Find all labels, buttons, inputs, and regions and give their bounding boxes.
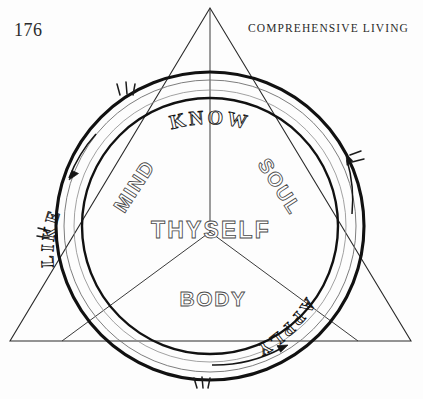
inner-label-soul: SOUL bbox=[254, 154, 306, 218]
inner-label-body: BODY bbox=[179, 287, 246, 310]
book-page: 176 COMPREHENSIVE LIVING bbox=[0, 0, 423, 399]
inner-label-thyself: THYSELF bbox=[151, 217, 271, 243]
ring-direction-arrows bbox=[69, 134, 353, 365]
inner-label-mind: MIND bbox=[109, 156, 159, 216]
know-thyself-wheel-diagram: KNOW APPLY LIKE MIND SOUL THYSELF BODY bbox=[0, 0, 423, 399]
ring-label-apply: APPLY bbox=[251, 295, 319, 362]
inner-labels: MIND SOUL THYSELF BODY bbox=[109, 154, 306, 310]
